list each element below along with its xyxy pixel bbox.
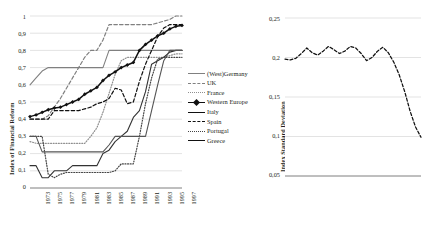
legend-key-dash-gray (188, 80, 205, 87)
left-ytick-07: 0,7 (12, 65, 26, 71)
legend-key-solid-gray (188, 70, 205, 77)
right-ytick-005: 0,05 (260, 172, 280, 178)
legend-key-solid-black-marker (188, 99, 205, 106)
legend-key-dot-gray (188, 89, 205, 96)
left-plot-area (30, 16, 182, 188)
left-xtick-1995: 1995 (179, 192, 185, 204)
left-ytick-0: 0 (12, 184, 26, 190)
right-ytick-025: 0,25 (260, 16, 280, 22)
left-xtick-1987: 1987 (130, 192, 136, 204)
left-ytick-05: 0,5 (12, 99, 26, 105)
left-line-spain (30, 25, 182, 120)
left-ytick-06: 0,6 (12, 82, 26, 88)
right-ytick-01: 0,1 (260, 133, 280, 139)
left-line-italy (30, 50, 182, 177)
left-xtick-1989: 1989 (143, 192, 149, 204)
left-ytick-04: 0,4 (12, 116, 26, 122)
legend-key-dash-black (188, 118, 205, 125)
diamond-marker-icon (193, 99, 200, 106)
legend-key-solid-black (188, 109, 205, 116)
left-xtick-1975: 1975 (58, 192, 64, 204)
left-marker-point (28, 115, 32, 119)
right-plot-area (285, 18, 421, 176)
left-ytick-03: 0,3 (12, 133, 26, 139)
left-xtick-1991: 1991 (155, 192, 161, 204)
right-line-index-standard-deviation (285, 46, 421, 137)
left-xtick-1973: 1973 (45, 192, 51, 204)
left-xtick-1977: 1977 (70, 192, 76, 204)
left-ytick-08: 0,8 (12, 48, 26, 54)
left-xtick-1983: 1983 (106, 192, 112, 204)
left-xtick-1997: 1997 (191, 192, 197, 204)
legend-key-solid-black-2 (188, 137, 205, 144)
right-series-group (285, 46, 421, 137)
left-xtick-1981: 1981 (94, 192, 100, 204)
left-ytick-02: 0,2 (12, 150, 26, 156)
left-ytick-1: 1 (12, 14, 26, 20)
chart-panel-standard-deviation: Index Standard Deviation 0,25 0,2 0,15 0… (213, 0, 425, 239)
chart-panel-financial-reform: Index of Financial Reform 1 0,9 0,8 0,7 … (0, 0, 213, 239)
left-marker-point (52, 106, 56, 110)
right-ytick-015: 0,15 (260, 94, 280, 100)
left-xtick-1985: 1985 (118, 192, 124, 204)
left-xtick-1993: 1993 (167, 192, 173, 204)
left-line-portugal (30, 57, 182, 177)
left-ytick-01: 0,1 (12, 167, 26, 173)
left-xtick-1979: 1979 (82, 192, 88, 204)
figure-root: Index of Financial Reform 1 0,9 0,8 0,7 … (0, 0, 425, 239)
left-ytick-09: 0,9 (12, 31, 26, 37)
legend-key-dot-black (188, 128, 205, 135)
right-gridlines (285, 18, 421, 176)
right-ytick-02: 0,2 (260, 55, 280, 61)
